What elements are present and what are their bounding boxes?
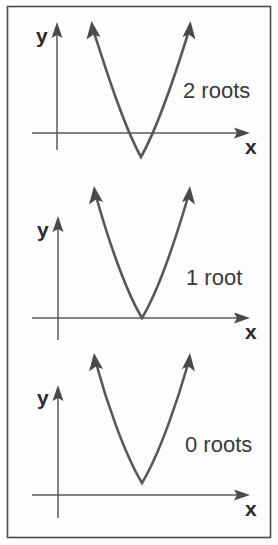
y-axis-label-panel1: y [36, 24, 48, 47]
annotation-two-roots: 2 roots [183, 78, 250, 103]
curve-left-arrow-icon-panel1 [87, 21, 101, 40]
parabola-curve-panel1 [94, 31, 189, 157]
panel-zero-roots: x y 0 roots [32, 353, 257, 520]
annotation-one-root: 1 root [186, 265, 242, 290]
x-axis-label-panel3: x [245, 497, 257, 520]
curve-right-arrow-icon-panel2 [182, 186, 195, 205]
x-axis-label-panel2: x [245, 320, 257, 343]
curve-left-arrow-icon-panel2 [89, 186, 103, 205]
curve-right-arrow-icon-panel3 [182, 353, 195, 372]
curve-right-arrow-icon-panel1 [183, 21, 196, 40]
curve-left-arrow-icon-panel3 [89, 353, 103, 372]
figure-canvas: x y 2 roots x y [0, 0, 278, 545]
parabola-roots-figure: x y 2 roots x y [0, 0, 278, 545]
parabola-curve-panel3 [96, 363, 188, 483]
panel-two-roots: x y 2 roots [32, 21, 257, 158]
y-axis-label-panel3: y [37, 386, 49, 409]
panel-one-root: x y 1 root [32, 186, 257, 343]
annotation-zero-roots: 0 roots [185, 432, 252, 457]
x-axis-label-panel1: x [245, 135, 257, 158]
y-axis-label-panel2: y [37, 218, 49, 241]
parabola-curve-panel2 [96, 196, 188, 318]
